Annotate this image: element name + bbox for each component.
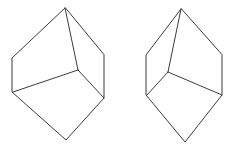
right-figure-fill	[146, 9, 222, 142]
left-figure	[12, 8, 104, 140]
left-figure-fill	[12, 8, 104, 140]
figure-pair-drawing	[0, 0, 246, 154]
stimulus-canvas	[0, 0, 246, 154]
right-figure	[146, 9, 222, 142]
